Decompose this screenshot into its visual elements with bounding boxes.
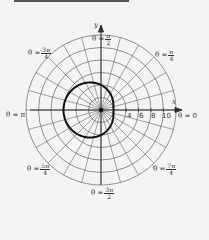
x-axis-label: x: [172, 98, 176, 106]
angle-label-3pi-over-2: θ =3π2: [91, 187, 114, 200]
angle-label-3pi-over-4: θ =3π4: [28, 47, 51, 60]
angle-label-pi-over-4: θ =π4: [155, 49, 174, 62]
y-axis-label: y: [94, 21, 98, 29]
tick-label-4: 4: [127, 112, 131, 120]
angle-label-5pi-over-4: θ =5π4: [27, 163, 50, 176]
y-axis-arrow-icon: [99, 25, 104, 32]
origin-point: [99, 108, 103, 112]
angle-label-7pi-over-4: θ =7π4: [153, 163, 176, 176]
angle-label-0: θ = 0: [178, 113, 197, 120]
tick-label-8: 8: [151, 112, 155, 120]
angle-label-pi-over-2: θ =π2: [92, 33, 111, 46]
tick-label-10: 10: [162, 112, 171, 120]
angle-label-pi: θ = π: [6, 112, 25, 119]
tick-label-6: 6: [139, 112, 143, 120]
